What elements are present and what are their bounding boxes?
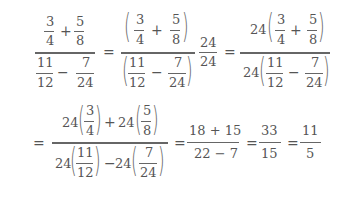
right-paren: ) — [318, 9, 325, 43]
left-paren: ( — [267, 9, 274, 43]
fraction-bar — [305, 73, 323, 74]
minus-operator: − — [151, 65, 163, 79]
denominator-digit: 12 — [129, 76, 146, 89]
numerator: 33 — [261, 124, 278, 137]
left-paren: ( — [78, 102, 85, 136]
denominator-digit: 24 — [140, 166, 157, 179]
right-paren: ) — [158, 143, 165, 177]
denominator: 22 − 7 — [194, 147, 238, 160]
denominator-digit: 4 — [277, 33, 285, 46]
numerator-digit: 5 — [172, 13, 180, 26]
numerator-digit: 7 — [82, 56, 90, 69]
numerator-digit: 11 — [129, 56, 146, 69]
fraction-bar — [168, 73, 186, 74]
coefficient: 24 — [243, 66, 260, 79]
fraction-bar — [307, 30, 317, 31]
denominator: 15 — [261, 147, 278, 160]
right-paren: ) — [94, 143, 101, 177]
multiplier-numerator: 24 — [200, 36, 217, 49]
fraction-bar — [141, 121, 151, 122]
denominator-digit: 4 — [86, 124, 94, 137]
denominator-digit: 8 — [76, 34, 84, 47]
numerator-digit: 5 — [143, 104, 151, 117]
minus-operator: − — [104, 156, 116, 170]
main-fraction-bar — [240, 52, 330, 54]
fraction-bar — [44, 31, 54, 32]
fraction-bar — [76, 163, 93, 164]
fraction-bar — [199, 52, 217, 53]
fraction-bar — [139, 163, 157, 164]
left-paren: ( — [70, 143, 77, 177]
fraction-bar — [76, 73, 94, 74]
plus-operator: + — [290, 23, 302, 37]
minus-operator: − — [57, 65, 69, 79]
numerator-digit: 11 — [267, 56, 284, 69]
denominator-digit: 8 — [143, 124, 151, 137]
right-paren: ) — [323, 53, 330, 87]
main-fraction-bar — [35, 52, 95, 54]
denominator-digit: 8 — [309, 33, 317, 46]
left-paren: ( — [135, 102, 142, 136]
fraction-bar — [128, 73, 145, 74]
denominator-digit: 24 — [169, 76, 186, 89]
denominator-digit: 4 — [46, 34, 54, 47]
coefficient: 24 — [62, 116, 79, 129]
numerator-digit: 11 — [37, 56, 54, 69]
denominator-digit: 12 — [37, 76, 54, 89]
denominator-digit: 8 — [172, 33, 180, 46]
equals-sign: = — [33, 136, 45, 150]
right-paren: ) — [182, 9, 189, 43]
numerator-digit: 11 — [77, 146, 94, 159]
numerator: 11 — [302, 124, 319, 137]
equals-sign: = — [224, 45, 236, 59]
fraction-bar — [84, 121, 94, 122]
fraction-bar — [134, 30, 144, 31]
coefficient: 24 — [250, 23, 267, 36]
right-paren: ( — [131, 143, 138, 177]
fraction-bar — [187, 142, 239, 143]
equals-sign: = — [174, 136, 186, 150]
fraction-bar — [36, 73, 53, 74]
fraction-bar — [300, 142, 321, 143]
numerator-digit: 3 — [46, 15, 54, 28]
denominator-digit: 4 — [136, 33, 144, 46]
fraction-bar — [259, 142, 281, 143]
equals-sign: = — [103, 45, 115, 59]
fraction-bar — [170, 30, 180, 31]
numerator-digit: 3 — [136, 13, 144, 26]
plus-operator: + — [60, 24, 72, 38]
numerator-digit: 7 — [145, 146, 153, 159]
equals-sign: = — [246, 136, 258, 150]
right-paren: ) — [95, 102, 102, 136]
plus-operator: + — [104, 115, 116, 129]
denominator-digit: 24 — [77, 76, 94, 89]
numerator-digit: 5 — [309, 13, 317, 26]
coefficient: 24 — [115, 157, 132, 170]
denominator-digit: 12 — [267, 76, 284, 89]
numerator-digit: 5 — [76, 15, 84, 28]
plus-operator: + — [151, 23, 163, 37]
left-paren: ( — [259, 53, 266, 87]
left-paren: ( — [124, 9, 131, 43]
right-paren: ) — [152, 102, 159, 136]
equals-sign: = — [287, 136, 299, 150]
main-fraction-bar — [121, 52, 195, 54]
numerator-digit: 7 — [311, 56, 319, 69]
right-paren: ) — [186, 53, 193, 87]
denominator-digit: 12 — [77, 166, 94, 179]
denominator: 5 — [306, 147, 314, 160]
numerator-digit: 7 — [174, 56, 182, 69]
multiplier-denominator: 24 — [200, 55, 217, 68]
fraction-bar — [266, 73, 283, 74]
minus-operator: − — [288, 65, 300, 79]
fraction-bar — [74, 31, 84, 32]
fraction-bar — [275, 30, 285, 31]
coefficient: 24 — [118, 116, 135, 129]
numerator-digit: 3 — [86, 104, 94, 117]
numerator: 18 + 15 — [189, 124, 241, 137]
left-paren: ( — [122, 53, 129, 87]
numerator-digit: 3 — [277, 13, 285, 26]
denominator-digit: 24 — [306, 76, 323, 89]
